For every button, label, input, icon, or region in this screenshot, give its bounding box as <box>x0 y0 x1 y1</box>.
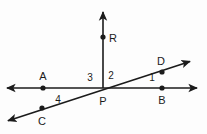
point-label-r: R <box>109 33 117 44</box>
point-dot-b <box>159 85 164 90</box>
angle-label-2: 2 <box>108 71 114 81</box>
point-dot-c <box>39 105 44 110</box>
angle-label-4: 4 <box>55 95 61 105</box>
angle-label-1: 1 <box>149 73 155 83</box>
point-label-p: P <box>99 96 106 107</box>
point-dot-a <box>40 85 45 90</box>
angle-label-3: 3 <box>87 73 93 83</box>
point-label-d: D <box>157 56 165 67</box>
point-label-a: A <box>39 71 46 82</box>
geometry-figure: A B C D R P 1 2 3 4 <box>0 0 207 134</box>
point-label-c: C <box>38 116 46 127</box>
point-label-b: B <box>158 95 165 106</box>
point-dot-d <box>159 69 164 74</box>
geometry-canvas <box>0 0 207 134</box>
point-dot-r <box>100 34 105 39</box>
